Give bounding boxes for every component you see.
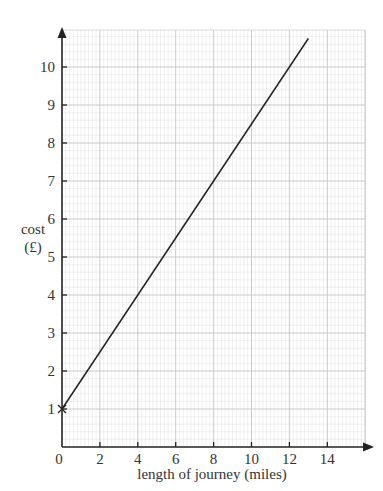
y-axis-arrow-icon <box>58 27 67 38</box>
y-tick-label: 5 <box>48 249 56 265</box>
x-tick-label: 10 <box>244 451 259 467</box>
y-tick-label: 10 <box>40 59 55 75</box>
x-tick-label: 2 <box>96 451 104 467</box>
x-tick-label: 6 <box>172 451 180 467</box>
x-tick-label: 0 <box>55 451 63 467</box>
y-tick-label: 4 <box>48 287 56 303</box>
x-tick-label: 14 <box>320 451 336 467</box>
y-axis-title-line1: cost <box>21 221 46 237</box>
x-tick-label: 12 <box>282 451 297 467</box>
y-tick-label: 1 <box>48 401 56 417</box>
y-tick-label: 8 <box>48 135 56 151</box>
series-line <box>62 39 308 410</box>
y-tick-label: 9 <box>48 97 56 113</box>
y-tick-label: 6 <box>48 211 56 227</box>
y-tick-label: 3 <box>48 325 56 341</box>
axes <box>58 27 375 452</box>
x-axis-title: length of journey (miles) <box>137 466 287 483</box>
x-tick-label: 4 <box>134 451 142 467</box>
data-series <box>62 39 308 410</box>
y-tick-label: 7 <box>48 173 56 189</box>
y-axis-title-line2: (£) <box>24 239 42 256</box>
y-tick-label: 2 <box>48 363 56 379</box>
x-tick-label: 8 <box>210 451 218 467</box>
x-axis-arrow-icon <box>363 443 374 452</box>
line-chart: 02468101214 12345678910 length of journe… <box>0 0 383 491</box>
